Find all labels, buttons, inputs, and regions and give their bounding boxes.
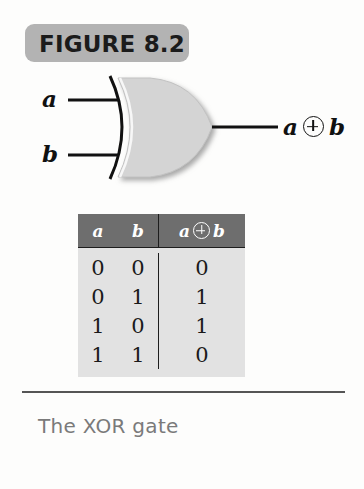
column-header-b: b [118, 214, 158, 247]
xor-back-arc [110, 76, 122, 179]
caption-divider [22, 391, 345, 393]
cell-b: 0 [118, 311, 158, 340]
truth-table-body: 0 0 0 0 1 1 1 0 1 1 1 0 [78, 248, 245, 377]
cell-output: 1 [158, 282, 245, 311]
cell-b: 1 [118, 282, 158, 311]
column-header-a: a [78, 214, 118, 247]
column-header-output-left: a [179, 221, 190, 241]
cell-a: 1 [78, 311, 118, 340]
cell-output: 1 [158, 311, 245, 340]
table-row: 0 0 0 [78, 253, 245, 282]
column-header-output-right: b [213, 221, 225, 241]
xor-circle-plus-icon [303, 116, 324, 137]
truth-table: a b a b 0 0 0 0 1 1 1 0 1 [78, 214, 245, 377]
table-row: 1 1 0 [78, 340, 245, 369]
cell-a: 1 [78, 340, 118, 369]
input-label-a: a [42, 85, 57, 112]
output-operand-right: b [329, 115, 345, 138]
xor-circle-plus-icon [193, 222, 210, 239]
output-operand-left: a [283, 115, 298, 138]
cell-b: 0 [118, 253, 158, 282]
cell-output: 0 [158, 340, 245, 369]
cell-a: 0 [78, 282, 118, 311]
output-expression: a b [283, 115, 345, 138]
cell-output: 0 [158, 253, 245, 282]
input-label-b: b [42, 140, 58, 167]
figure-banner: FIGURE 8.2 [25, 24, 189, 62]
figure-caption: The XOR gate [38, 414, 179, 438]
cell-a: 0 [78, 253, 118, 282]
table-row: 0 1 1 [78, 282, 245, 311]
xor-gate-diagram: a b a b [0, 70, 364, 195]
figure-number-label: FIGURE 8.2 [39, 31, 185, 57]
column-header-output: a b [158, 214, 245, 247]
truth-table-header-row: a b a b [78, 214, 245, 248]
figure-page: FIGURE 8.2 a b a b [0, 0, 364, 489]
cell-b: 1 [118, 340, 158, 369]
table-row: 1 0 1 [78, 311, 245, 340]
